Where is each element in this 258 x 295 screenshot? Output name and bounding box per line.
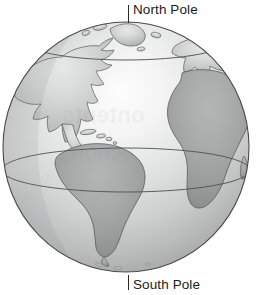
north-pole-label: North Pole (133, 2, 198, 17)
globe-figure: ontents ection North Pole South Pole (0, 0, 258, 295)
globe-illustration (0, 0, 258, 295)
south-pole-label: South Pole (133, 277, 200, 292)
north-pole-leader-line (128, 5, 129, 23)
south-pole-leader-line (128, 275, 129, 290)
